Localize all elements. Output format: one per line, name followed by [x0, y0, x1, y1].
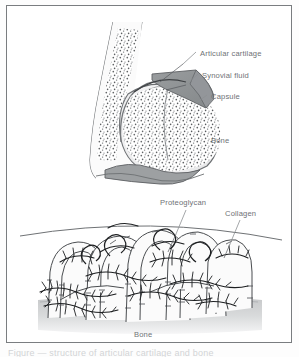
label-capsule: Capsule	[211, 92, 240, 101]
label-proteoglycan: Proteoglycan	[160, 198, 206, 207]
figure-root: Articular cartilage Synovial fluid Capsu…	[0, 0, 299, 357]
label-collagen: Collagen	[225, 209, 256, 218]
collagen-fiber-group	[48, 230, 252, 322]
label-bone-top-panel: Bone	[211, 136, 229, 145]
caption-text: Figure — structure of articular cartilag…	[8, 349, 291, 357]
leader-articular-cartilage	[183, 52, 196, 64]
label-synovial-fluid: Synovial fluid	[202, 71, 249, 80]
label-bone-bottom-panel: Bone	[134, 330, 152, 339]
top-panel-illustration	[90, 20, 230, 184]
leader-proteoglycan	[176, 210, 186, 234]
label-articular-cartilage: Articular cartilage	[200, 49, 262, 58]
bottom-panel-illustration	[20, 210, 282, 334]
caption-strip: Figure — structure of articular cartilag…	[8, 349, 291, 357]
